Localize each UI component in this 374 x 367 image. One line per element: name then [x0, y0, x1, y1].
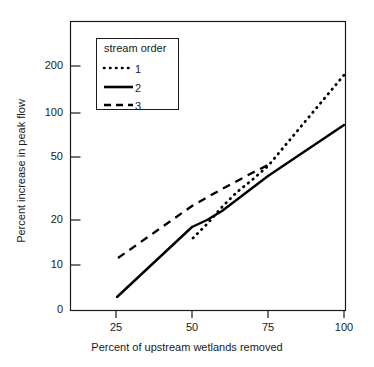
figure-container: 200 100 50 20 10 0 25 50 75 100 Percent … [0, 0, 374, 367]
legend-title: stream order [104, 43, 166, 54]
y-tick-label-200: 200 [33, 60, 63, 71]
y-tick-label-20: 20 [33, 214, 63, 225]
clipped-caption [0, 360, 374, 367]
legend-label-order-1: 1 [135, 63, 141, 75]
x-tick-label-100: 100 [324, 322, 364, 333]
x-axis-title: Percent of upstream wetlands removed [0, 341, 374, 353]
x-axis-ticks [116, 311, 344, 319]
legend-label-order-2: 2 [135, 82, 141, 94]
y-tick-label-0: 0 [33, 304, 63, 315]
y-axis-ticks [71, 66, 81, 265]
y-tick-label-50: 50 [33, 151, 63, 162]
x-tick-label-25: 25 [96, 322, 136, 333]
series-line-order-2 [117, 125, 344, 297]
y-tick-label-100: 100 [33, 107, 63, 118]
series-line-order-3 [118, 165, 268, 258]
y-axis-title: Percent increase in peak flow [15, 81, 27, 261]
x-tick-label-75: 75 [248, 322, 288, 333]
x-tick-label-50: 50 [172, 322, 212, 333]
y-tick-label-10: 10 [33, 259, 63, 270]
legend-label-order-3: 3 [135, 100, 141, 112]
